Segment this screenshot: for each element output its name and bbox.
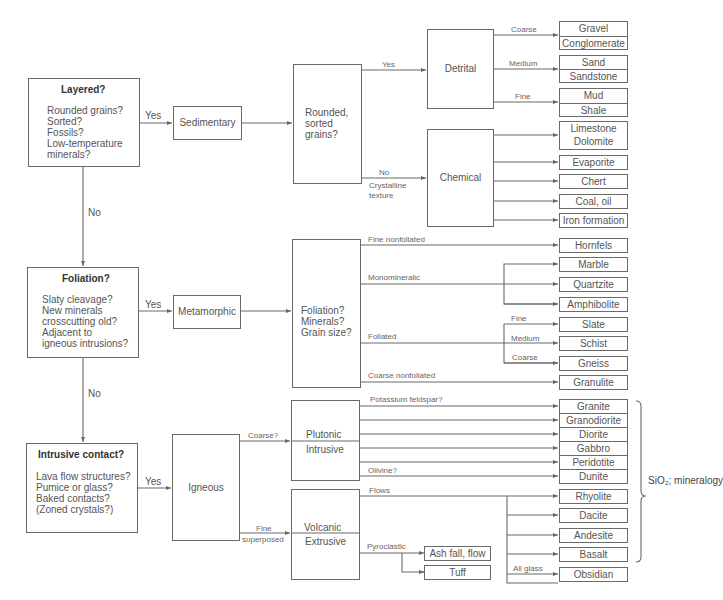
plutonic-label: Plutonic <box>306 429 342 441</box>
rock-basalt: Basalt <box>559 547 628 562</box>
rock-dacite: Dacite <box>559 508 628 523</box>
rock-name: Limestone <box>560 122 627 135</box>
yes-label: Yes <box>145 299 161 311</box>
rock-dunite: Dunite <box>559 469 628 484</box>
rock-mud-shale: Mud Shale <box>559 88 628 117</box>
pyroclastic-label: Pyroclastic <box>367 542 406 552</box>
rock-diorite: Diorite <box>559 427 628 442</box>
yes-label: Yes <box>145 476 161 488</box>
rounded-sorted-question-box: Rounded, sorted grains? <box>293 64 362 184</box>
rock-evaporite: Evaporite <box>559 155 628 170</box>
fine-label: Fine <box>515 92 531 102</box>
intrusive-label: Intrusive <box>306 444 344 456</box>
rock-coal-oil: Coal, oil <box>559 194 628 209</box>
rock-gabbro: Gabbro <box>559 441 628 456</box>
foliated-label: Foliated <box>368 332 396 342</box>
no-label: No <box>88 388 101 400</box>
texture-label: texture <box>369 191 393 201</box>
rock-name: Sand <box>560 56 627 69</box>
coarse-nonfoliated-label: Coarse nonfoliated <box>368 371 435 381</box>
olivine-label: Olivine? <box>368 466 397 476</box>
rock-rhyolite: Rhyolite <box>559 489 628 504</box>
fine-label: Fine <box>256 524 272 534</box>
rock-name: Dolomite <box>560 135 627 148</box>
foliation-test-box: Foliation? Slaty cleavage? New minerals … <box>27 267 139 358</box>
sedimentary-box: Sedimentary <box>173 106 242 140</box>
rock-obsidian: Obsidian <box>559 567 628 582</box>
no-label: No <box>88 207 101 219</box>
potassium-feldspar-label: Potassium feldspar? <box>370 395 442 405</box>
volcanic-extrusive-box: Volcanic Extrusive <box>291 489 360 580</box>
monomineralic-label: Monomineralic <box>368 273 420 283</box>
detrital-box: Detrital <box>427 29 494 109</box>
yes-label: Yes <box>145 110 161 122</box>
rock-name: Shale <box>560 103 627 118</box>
rock-slate: Slate <box>559 317 628 332</box>
extrusive-label: Extrusive <box>305 536 346 548</box>
crystalline-label: Crystalline <box>369 181 406 191</box>
intrusive-contact-test-box: Intrusive contact? Lava flow structures?… <box>26 443 138 533</box>
no-label: No <box>379 168 389 178</box>
rock-limestone-dolomite: Limestone Dolomite <box>559 121 628 150</box>
rock-sand-sandstone: Sand Sandstone <box>559 55 628 83</box>
rock-schist: Schist <box>559 336 628 351</box>
rock-peridotite: Peridotite <box>559 455 628 470</box>
rock-granulite: Granulite <box>559 375 628 390</box>
rock-amphibolite: Amphibolite <box>559 297 628 312</box>
medium-label: Medium <box>511 334 539 344</box>
rock-ash-fall-flow: Ash fall, flow <box>424 546 491 561</box>
coarse-label: Coarse? <box>248 431 278 441</box>
rock-marble: Marble <box>559 257 628 272</box>
rock-name: Sandstone <box>560 69 627 83</box>
metamorphic-box: Metamorphic <box>173 295 241 329</box>
sio2-mineralogy-label: SiO₂; mineralogy <box>648 475 723 487</box>
layered-test-box: Layered? Rounded grains? Sorted? Fossils… <box>28 78 140 167</box>
chemical-box: Chemical <box>427 129 494 227</box>
coarse-label: Coarse <box>511 25 537 35</box>
fine-nonfoliated-label: Fine nonfoliated <box>368 235 425 245</box>
rock-chert: Chert <box>559 174 628 189</box>
superposed-label: superposed <box>242 535 284 545</box>
foliation-line: igneous intrusions? <box>42 338 128 350</box>
rock-name: Gravel <box>560 22 627 36</box>
rock-name: Mud <box>560 89 627 103</box>
rock-granite: Granite <box>559 399 628 414</box>
intrusive-title: Intrusive contact? <box>38 449 124 461</box>
all-glass-label: All glass <box>513 564 543 574</box>
coarse-label: Coarse <box>512 353 538 363</box>
igneous-box: Igneous <box>172 434 240 541</box>
yes-label: Yes <box>382 60 395 70</box>
rock-name: Conglomerate <box>560 36 627 51</box>
fine-label: Fine <box>511 314 527 324</box>
volcanic-label: Volcanic <box>304 522 341 534</box>
question-line: grains? <box>305 129 338 141</box>
rock-granodiorite: Granodiorite <box>559 413 628 428</box>
foliation-title: Foliation? <box>62 273 110 285</box>
rock-andesite: Andesite <box>559 528 628 543</box>
intrusive-line: (Zoned crystals?) <box>36 504 113 516</box>
medium-label: Medium <box>509 59 537 69</box>
layered-title: Layered? <box>61 84 105 96</box>
rock-gneiss: Gneiss <box>559 356 628 371</box>
rock-tuff: Tuff <box>424 565 491 580</box>
rock-gravel-conglomerate: Gravel Conglomerate <box>559 21 628 50</box>
rock-hornfels: Hornfels <box>559 238 628 253</box>
layered-line: minerals? <box>47 149 90 161</box>
rock-iron-formation: Iron formation <box>559 213 628 228</box>
foliation-minerals-question-box: Foliation? Minerals? Grain size? <box>292 239 361 388</box>
question-line: Grain size? <box>301 327 352 339</box>
flows-label: Flows <box>369 486 390 496</box>
plutonic-intrusive-box: Plutonic Intrusive <box>291 400 360 481</box>
rock-quartzite: Quartzite <box>559 277 628 292</box>
